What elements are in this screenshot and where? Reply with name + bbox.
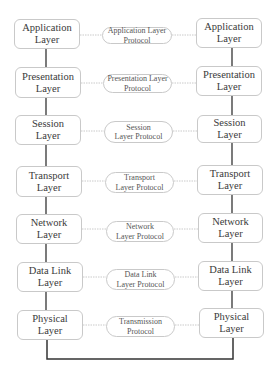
layer-label: Presentation xyxy=(22,71,74,83)
right-presentation-layer: Presentation Layer xyxy=(196,66,262,96)
layer-label: Data Link xyxy=(29,265,71,277)
layer-label: Layer xyxy=(37,182,61,194)
right-data-link-layer: Data Link Layer xyxy=(198,261,263,291)
transmission-protocol: Transmission Protocol xyxy=(106,316,175,337)
layer-label: Layer xyxy=(218,180,242,192)
right-physical-layer: Physical Layer xyxy=(199,308,264,338)
protocol-label: Application Layer xyxy=(108,26,166,36)
application-protocol: Application Layer Protocol xyxy=(102,27,172,44)
right-network-layer: Network Layer xyxy=(198,213,263,243)
layer-label: Data Link xyxy=(209,264,251,276)
layer-label: Transport xyxy=(210,168,250,180)
layer-label: Layer xyxy=(36,83,60,95)
protocol-label: Layer Protocol xyxy=(117,280,165,290)
protocol-label: Network xyxy=(126,222,154,232)
right-session-layer: Session Layer xyxy=(197,115,262,143)
physical-medium-line xyxy=(47,338,233,359)
left-presentation-layer: Presentation Layer xyxy=(15,67,81,98)
layer-label: Layer xyxy=(218,228,242,240)
layer-label: Application xyxy=(22,22,72,34)
layer-label: Layer xyxy=(217,81,241,93)
layer-label: Network xyxy=(31,217,68,229)
layer-label: Layer xyxy=(37,229,61,241)
session-protocol: Session Layer Protocol xyxy=(104,121,173,143)
layer-label: Network xyxy=(212,216,249,228)
layer-label: Layer xyxy=(218,276,242,288)
network-protocol: Network Layer Protocol xyxy=(106,221,174,242)
layer-label: Transport xyxy=(29,170,69,182)
left-network-layer: Network Layer xyxy=(16,214,82,244)
protocol-label: Layer Protocol xyxy=(116,183,164,193)
presentation-protocol: Presentation Layer Protocol xyxy=(103,74,172,93)
protocol-label: Layer Protocol xyxy=(116,232,164,242)
layer-label: Layer xyxy=(217,129,241,141)
protocol-label: Session xyxy=(126,123,150,133)
layer-label: Session xyxy=(32,118,64,130)
protocol-label: Layer Protocol xyxy=(115,132,163,142)
transport-protocol: Transport Layer Protocol xyxy=(105,172,174,193)
left-physical-layer: Physical Layer xyxy=(17,310,83,340)
right-transport-layer: Transport Layer xyxy=(197,165,263,195)
protocol-label: Data Link xyxy=(124,270,156,280)
layer-label: Layer xyxy=(38,325,62,337)
layer-label: Application xyxy=(204,21,254,33)
layer-label: Layer xyxy=(38,277,62,289)
osi-diagram: Application Layer Presentation Layer Ses… xyxy=(0,0,279,377)
protocol-label: Protocol xyxy=(123,36,150,46)
layer-label: Layer xyxy=(217,33,241,45)
left-session-layer: Session Layer xyxy=(15,115,81,145)
layer-label: Layer xyxy=(36,130,60,142)
layer-label: Physical xyxy=(214,311,250,323)
left-data-link-layer: Data Link Layer xyxy=(17,262,83,292)
protocol-label: Transmission xyxy=(119,317,162,327)
protocol-label: Protocol xyxy=(127,327,154,337)
protocol-label: Protocol xyxy=(124,84,151,94)
left-transport-layer: Transport Layer xyxy=(16,166,82,197)
left-application-layer: Application Layer xyxy=(14,19,80,49)
right-application-layer: Application Layer xyxy=(196,18,262,48)
data-link-protocol: Data Link Layer Protocol xyxy=(106,269,175,290)
layer-label: Physical xyxy=(32,313,68,325)
layer-label: Layer xyxy=(219,323,243,335)
protocol-label: Presentation Layer xyxy=(107,74,167,84)
layer-label: Session xyxy=(213,117,245,129)
layer-label: Presentation xyxy=(203,69,255,81)
protocol-label: Transport xyxy=(124,173,155,183)
layer-label: Layer xyxy=(35,34,59,46)
